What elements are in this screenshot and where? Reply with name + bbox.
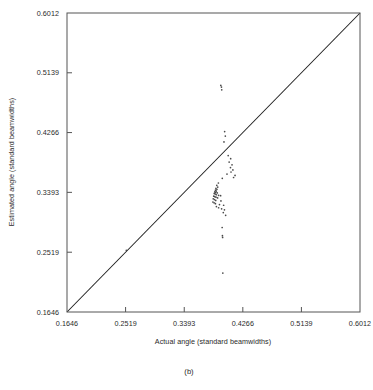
data-point (217, 186, 219, 188)
x-tick-label: 0.3393 (173, 319, 195, 328)
x-axis-tick-labels: 0.16460.25190.33930.42660.51390.6012 (56, 319, 371, 328)
data-point (223, 204, 225, 206)
scatter-plot: 0.16460.25190.33930.42660.51390.6012 0.1… (0, 0, 373, 390)
data-point (224, 209, 226, 211)
x-tick-label: 0.4266 (232, 319, 254, 328)
data-point (218, 182, 220, 184)
y-tick-label: 0.1646 (37, 308, 59, 317)
data-point (221, 177, 223, 179)
data-point (216, 194, 218, 196)
data-point (216, 206, 218, 208)
data-point (233, 177, 235, 179)
y-axis-ticks (67, 73, 72, 252)
y-axis-tick-labels: 0.16460.25190.33930.42660.51390.6012 (37, 9, 59, 317)
data-point (232, 169, 234, 171)
data-point (217, 197, 219, 199)
data-point (218, 207, 220, 209)
data-point (231, 164, 233, 166)
data-point (220, 195, 222, 197)
data-point (218, 194, 220, 196)
data-point (222, 272, 224, 274)
data-point (215, 203, 217, 205)
figure-container: 0.16460.25190.33930.42660.51390.6012 0.1… (0, 0, 373, 390)
data-point (215, 200, 217, 202)
data-point (222, 212, 224, 214)
data-point (221, 86, 223, 88)
data-point (222, 235, 224, 237)
data-point (230, 171, 232, 173)
y-tick-label: 0.4266 (37, 128, 59, 137)
reference-line-group (67, 13, 360, 312)
data-point (222, 237, 224, 239)
data-point (215, 192, 217, 194)
y-tick-label: 0.6012 (37, 9, 59, 18)
y-tick-label: 0.5139 (37, 68, 59, 77)
data-point (221, 208, 223, 210)
x-tick-label: 0.2519 (114, 319, 136, 328)
data-point (226, 173, 228, 175)
data-point (125, 249, 127, 251)
x-tick-label: 0.6012 (349, 319, 371, 328)
data-point (224, 131, 226, 133)
x-tick-label: 0.1646 (56, 319, 78, 328)
y-tick-label: 0.3393 (37, 188, 59, 197)
data-point (234, 175, 236, 177)
figure-caption: (b) (184, 367, 194, 376)
y-axis-title: Estimated angle (standard beamwidths) (7, 98, 16, 227)
data-point (220, 85, 222, 87)
data-point (220, 200, 222, 202)
data-points-layer (125, 85, 235, 274)
data-point (219, 204, 221, 206)
data-point (221, 227, 223, 229)
data-point (225, 214, 227, 216)
data-point (216, 192, 218, 194)
x-axis-title: Actual angle (standard beamwidths) (155, 337, 271, 346)
data-point (221, 89, 223, 91)
data-point (227, 155, 229, 157)
data-point (223, 141, 225, 143)
data-point (216, 188, 218, 190)
data-point (216, 185, 218, 187)
data-point (230, 158, 232, 160)
identity-reference-line (67, 13, 360, 312)
data-point (224, 135, 226, 137)
data-point (215, 196, 217, 198)
x-tick-label: 0.5139 (290, 319, 312, 328)
data-point (230, 167, 232, 169)
x-axis-ticks (126, 307, 302, 312)
data-point (228, 161, 230, 163)
y-tick-label: 0.2519 (37, 248, 59, 257)
